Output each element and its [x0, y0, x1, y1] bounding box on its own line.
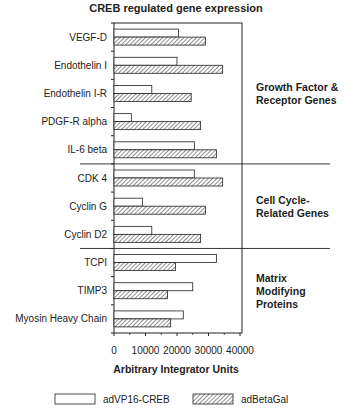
bar-adbetagal: [114, 122, 201, 130]
category-label: Cyclin D2: [64, 229, 107, 240]
bar-advp16-creb: [114, 29, 179, 37]
bar-advp16-creb: [114, 142, 194, 150]
bar-advp16-creb: [114, 114, 131, 122]
chart-title: CREB regulated gene expression: [89, 2, 263, 14]
legend-swatch-adbetagal: [193, 394, 233, 404]
bar-adbetagal: [114, 150, 216, 158]
group-label: Matrix: [256, 272, 287, 284]
bar-advp16-creb: [114, 311, 183, 319]
bar-adbetagal: [114, 319, 171, 327]
legend-swatch-advp16-creb: [55, 394, 95, 404]
chart: CREB regulated gene expression VEGF-DEnd…: [0, 0, 346, 415]
bars: [114, 29, 223, 327]
legend-label: adBetaGal: [241, 394, 288, 405]
category-label: PDGF-R alpha: [41, 116, 107, 127]
x-tick-label: 10000: [132, 345, 160, 356]
group-labels: Growth Factor &Receptor GenesCell Cycle-…: [256, 81, 339, 310]
category-label: TIMP3: [78, 285, 108, 296]
category-label: Myosin Heavy Chain: [15, 313, 107, 324]
legend-label: adVP16-CREB: [103, 394, 170, 405]
group-label: Proteins: [256, 298, 298, 310]
bar-adbetagal: [114, 263, 175, 271]
x-axis-label: Arbitrary Integrator Units: [113, 363, 239, 375]
bar-advp16-creb: [114, 170, 194, 178]
x-tick-label: 40000: [226, 345, 254, 356]
bar-advp16-creb: [114, 57, 177, 65]
bar-adbetagal: [114, 291, 168, 299]
category-labels: VEGF-DEndothelin IEndothelin I-RPDGF-R a…: [15, 32, 107, 325]
bar-advp16-creb: [114, 283, 193, 291]
x-tick-label: 20000: [163, 345, 191, 356]
legend: adVP16-CREBadBetaGal: [55, 394, 288, 405]
category-label: Cyclin G: [69, 201, 107, 212]
category-label: TCPI: [84, 257, 107, 268]
category-label: Endothelin I: [54, 60, 107, 71]
bar-advp16-creb: [114, 255, 216, 263]
bar-adbetagal: [114, 65, 223, 73]
x-tick-label: 0: [111, 345, 117, 356]
bar-adbetagal: [114, 234, 201, 242]
category-label: IL-6 beta: [68, 144, 108, 155]
category-label: CDK 4: [78, 173, 108, 184]
bar-adbetagal: [114, 37, 205, 45]
bar-adbetagal: [114, 178, 223, 186]
group-label: Growth Factor &: [256, 81, 339, 93]
category-label: VEGF-D: [69, 32, 107, 43]
group-label: Related Genes: [256, 207, 329, 219]
bar-adbetagal: [114, 93, 191, 101]
group-label: Modifying: [256, 285, 306, 297]
bar-advp16-creb: [114, 85, 152, 93]
bar-adbetagal: [114, 206, 205, 214]
x-axis: 010000200003000040000: [111, 333, 254, 356]
category-label: Endothelin I-R: [44, 88, 107, 99]
bar-advp16-creb: [114, 226, 152, 234]
group-label: Cell Cycle-: [256, 194, 310, 206]
x-tick-label: 30000: [195, 345, 223, 356]
group-label: Receptor Genes: [256, 94, 337, 106]
bar-advp16-creb: [114, 198, 142, 206]
